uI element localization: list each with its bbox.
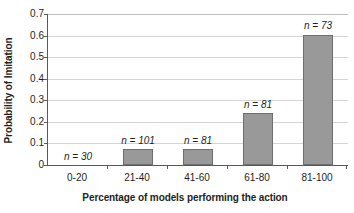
y-tick-label: 0.7 — [16, 9, 44, 19]
y-tick-label: 0.3 — [16, 95, 44, 105]
bar[interactable] — [243, 113, 273, 165]
x-tick-mark — [346, 165, 347, 169]
y-axis-title-text: Probability of Imitation — [4, 37, 15, 143]
plot-area: n = 30 n = 101 n = 81 n = 81 n = 73 — [47, 14, 348, 166]
bar-annotation: n = 81 — [163, 135, 233, 146]
x-tick-label: 21-40 — [107, 172, 167, 184]
y-tick-label: 0.6 — [16, 31, 44, 41]
x-tick-label: 61-80 — [227, 172, 287, 184]
bar-annotation: n = 30 — [43, 151, 113, 162]
bar-annotation: n = 81 — [223, 99, 293, 110]
y-tick-label: 0.1 — [16, 138, 44, 148]
bar-chart-figure: Probability of Imitation 0 0.1 0.2 0.3 0… — [0, 0, 354, 213]
y-tick-label: 0.2 — [16, 117, 44, 127]
x-tick-mark — [167, 165, 168, 169]
bar-slot — [288, 14, 348, 165]
x-tick-mark — [287, 165, 288, 169]
bar-annotation: n = 73 — [283, 20, 353, 31]
bar-slot — [48, 14, 108, 165]
bar[interactable] — [183, 149, 213, 165]
x-tick-mark — [107, 165, 108, 169]
x-axis-tick-labels: 0-20 21-40 41-60 61-80 81-100 — [47, 172, 347, 186]
y-tick-label: 0.5 — [16, 52, 44, 62]
x-axis-tick-marks — [47, 165, 347, 171]
x-tick-label: 0-20 — [47, 172, 107, 184]
y-tick-label: 0 — [16, 160, 44, 170]
x-tick-label: 81-100 — [287, 172, 347, 184]
bar-slot — [228, 14, 288, 165]
x-tick-mark — [227, 165, 228, 169]
bar[interactable] — [123, 149, 153, 165]
x-tick-label: 41-60 — [167, 172, 227, 184]
y-axis-tick-labels: 0 0.1 0.2 0.3 0.4 0.5 0.6 0.7 — [16, 0, 44, 213]
x-axis-title: Percentage of models performing the acti… — [20, 192, 350, 203]
bar[interactable] — [303, 35, 333, 166]
y-tick-label: 0.4 — [16, 74, 44, 84]
